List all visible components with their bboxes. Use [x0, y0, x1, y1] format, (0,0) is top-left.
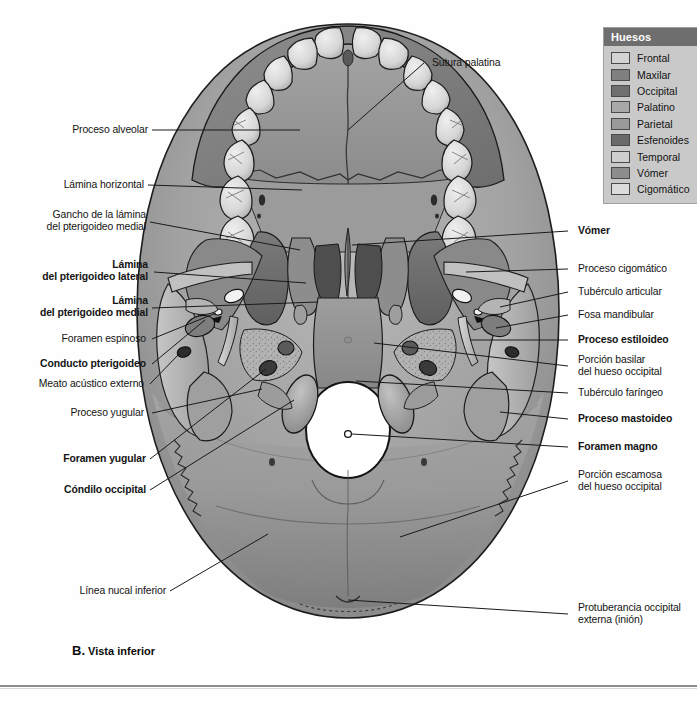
label-linea-nucal-inferior: Línea nucal inferior [80, 585, 166, 597]
caption-text: Vista inferior [85, 645, 155, 657]
legend-swatch-maxilar [611, 69, 630, 81]
label-lamina-pterigoideo-medial: Lámina del pterigoideo medial [40, 295, 148, 320]
legend-label-cigomatico: Cigomático [637, 183, 690, 195]
legend-item-cigomatico: Cigomático [611, 181, 697, 197]
bones-legend: Huesos Frontal Maxilar Occipital Palatin… [603, 27, 697, 204]
footer-divider-shadow [0, 688, 697, 689]
legend-label-esfenoides: Esfenoides [637, 134, 689, 146]
label-lamina-horizontal: Lámina horizontal [64, 179, 144, 191]
label-tuberculo-faringeo: Tubérculo faríngeo [578, 387, 663, 399]
legend-item-esfenoides: Esfenoides [611, 132, 697, 148]
label-proceso-cigomatico: Proceso cigomático [578, 263, 667, 275]
label-sutura-palatina: Sutura palatina [432, 57, 500, 69]
legend-label-parietal: Parietal [637, 118, 673, 130]
label-porcion-escamosa: Porción escamosa del hueso occipital [578, 469, 662, 494]
caption-letter: B. [72, 643, 85, 658]
label-proceso-yugular: Proceso yugular [70, 407, 144, 419]
label-meato-acustico-externo: Meato acústico externo [39, 378, 144, 390]
legend-rows: Frontal Maxilar Occipital Palatino Parie… [604, 46, 697, 198]
legend-label-temporal: Temporal [637, 151, 680, 163]
legend-label-vomer: Vómer [637, 167, 668, 179]
label-proceso-estiloideo: Proceso estiloideo [578, 334, 669, 346]
skull-inferior-view-illustration [0, 0, 697, 703]
legend-swatch-parietal [611, 118, 630, 130]
label-foramen-magno: Foramen magno [578, 441, 658, 453]
legend-swatch-temporal [611, 151, 630, 163]
legend-swatch-esfenoides [611, 134, 630, 146]
basilar-part-occipital [314, 298, 383, 388]
legend-item-maxilar: Maxilar [611, 66, 697, 82]
legend-title: Huesos [604, 28, 697, 46]
legend-swatch-occipital [611, 85, 630, 97]
legend-swatch-frontal [611, 52, 630, 64]
figure-caption: B. Vista inferior [72, 643, 155, 658]
legend-swatch-cigomatico [611, 183, 630, 195]
legend-swatch-vomer [611, 167, 630, 179]
label-proceso-alveolar: Proceso alveolar [72, 124, 148, 136]
footer-divider [0, 685, 697, 687]
label-vomer: Vómer [578, 225, 610, 237]
label-protuberancia-occipital: Protuberancia occipital externa (inión) [578, 602, 681, 627]
legend-item-occipital: Occipital [611, 83, 697, 99]
legend-item-parietal: Parietal [611, 116, 697, 132]
legend-item-vomer: Vómer [611, 165, 697, 181]
legend-item-frontal: Frontal [611, 50, 697, 66]
legend-swatch-palatino [611, 101, 630, 113]
legend-item-temporal: Temporal [611, 148, 697, 164]
label-foramen-yugular: Foramen yugular [63, 453, 146, 465]
label-fosa-mandibular: Fosa mandibular [578, 309, 654, 321]
legend-label-occipital: Occipital [637, 85, 677, 97]
legend-label-frontal: Frontal [637, 52, 670, 64]
figure-canvas: Sutura palatina Proceso alveolar Lámina … [0, 0, 697, 703]
label-proceso-mastoideo: Proceso mastoideo [578, 413, 672, 425]
label-foramen-espinoso: Foramen espinoso [62, 333, 146, 345]
label-lamina-pterigoideo-lateral: Lámina del pterigoideo lateral [42, 259, 148, 284]
label-condilo-occipital: Cóndilo occipital [64, 484, 146, 496]
legend-label-maxilar: Maxilar [637, 69, 671, 81]
label-conducto-pterigoideo: Conducto pterigoideo [40, 358, 146, 370]
legend-label-palatino: Palatino [637, 101, 675, 113]
label-gancho-lamina-pterigoideo: Gancho de la lámina del pterigoideo medi… [47, 209, 146, 234]
legend-item-palatino: Palatino [611, 99, 697, 115]
label-tuberculo-articular: Tubérculo articular [578, 286, 662, 298]
label-porcion-basilar: Porción basilar del hueso occipital [578, 354, 662, 379]
